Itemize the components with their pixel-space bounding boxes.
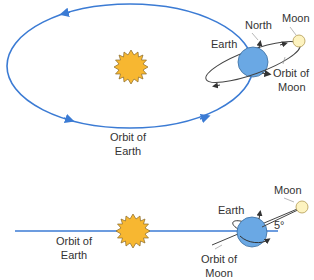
orbit-diagram: North Moon Earth Orbit of Moon Orbit of …	[0, 0, 314, 280]
label-orbit-moon-1: Orbit of	[201, 253, 238, 265]
moon-icon	[296, 201, 308, 213]
sun-icon	[116, 214, 150, 248]
label-orbit-moon-2: Moon	[205, 267, 233, 279]
top-view: North Moon Earth Orbit of Moon Orbit of …	[7, 4, 310, 157]
moon-orbit-arrow-icon	[280, 44, 285, 46]
label-orbit-earth-1: Orbit of	[56, 235, 93, 247]
north-arrow-icon	[259, 213, 260, 219]
sun-icon	[114, 50, 148, 84]
orbit-arrow-icon	[64, 118, 70, 120]
label-orbit-moon-2: Moon	[278, 81, 306, 93]
label-moon: Moon	[282, 12, 310, 24]
label-orbit-earth-2: Earth	[115, 145, 141, 157]
label-earth: Earth	[211, 38, 237, 50]
label-angle: 5°	[274, 219, 285, 231]
label-orbit-earth-2: Earth	[61, 249, 87, 261]
earth-icon	[238, 47, 268, 77]
moon-icon	[293, 35, 305, 47]
label-earth: Earth	[218, 204, 244, 216]
label-orbit-moon-1: Orbit of	[273, 67, 310, 79]
orbit-arrow-icon	[64, 12, 70, 14]
rotation-arrow-icon	[262, 73, 268, 74]
side-view: Moon Earth 5° Orbit of Earth Orbit of Mo…	[15, 184, 308, 279]
moon-orbit-arrow-icon	[215, 85, 220, 86]
label-moon: Moon	[274, 184, 302, 196]
label-north: North	[245, 19, 272, 31]
label-orbit-earth-1: Orbit of	[110, 131, 147, 143]
